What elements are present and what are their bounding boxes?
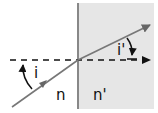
incident-angle-arc: [23, 65, 32, 89]
medium-left-label: n: [56, 86, 66, 104]
refraction-diagram: i i' n n': [0, 0, 158, 113]
medium-right-label: n': [93, 86, 107, 104]
incident-angle-label: i: [34, 64, 38, 82]
refracted-angle-label: i': [117, 41, 125, 59]
